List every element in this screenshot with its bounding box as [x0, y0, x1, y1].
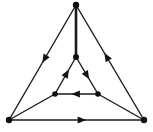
arrowhead-outer-bottom-edge — [78, 116, 87, 123]
vertex-inner-top — [73, 54, 79, 60]
edges-layer — [9, 5, 144, 120]
vertex-outer-bottom-right — [141, 117, 147, 123]
directed-graph-svg — [0, 0, 153, 132]
edge-outer-right-edge — [76, 5, 144, 120]
arrowheads-layer — [42, 53, 111, 124]
vertex-inner-bottom-left — [52, 91, 58, 97]
arrowhead-inner-bottom-edge — [71, 90, 80, 97]
arrowhead-outer-left-edge — [42, 54, 49, 63]
vertex-outer-top — [73, 2, 79, 8]
arrowhead-inner-right-edge — [82, 70, 89, 79]
vertex-outer-bottom-left — [6, 117, 12, 123]
arrowhead-outer-right-edge — [104, 53, 111, 62]
diagram-canvas — [0, 0, 153, 132]
vertex-inner-bottom-right — [95, 91, 101, 97]
